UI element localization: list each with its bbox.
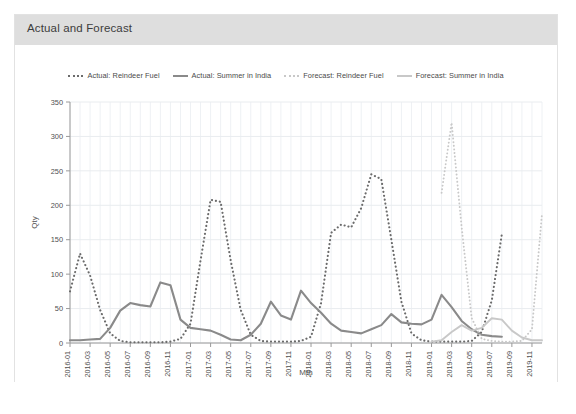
x-tick-label: 2016-03 — [83, 351, 92, 377]
x-tick-label: 2019-01 — [425, 351, 434, 377]
card-title: Actual and Forecast — [27, 22, 132, 34]
x-axis-title: Mth — [299, 368, 312, 377]
x-tick-label: 2019-11 — [525, 351, 534, 377]
x-tick-label: 2019-09 — [505, 351, 514, 377]
y-tick-label: 300 — [51, 132, 63, 141]
x-tick-label: 2018-09 — [384, 351, 393, 377]
y-tick-label: 0 — [59, 339, 63, 348]
y-tick-label: 50 — [55, 304, 63, 313]
x-tick-label: 2016-05 — [103, 351, 112, 377]
x-tick-label: 2017-11 — [284, 351, 293, 377]
x-tick-label: 2019-03 — [445, 351, 454, 377]
card-header: Actual and Forecast — [15, 15, 557, 45]
x-tick-label: 2016-01 — [63, 351, 72, 377]
x-tick-label: 2017-07 — [244, 351, 253, 377]
screenshot-root: Actual and Forecast Actual: Reindeer Fue… — [0, 0, 576, 414]
x-tick-label: 2016-09 — [143, 351, 152, 377]
x-tick-label: 2019-07 — [485, 351, 494, 377]
chart-card: Actual and Forecast Actual: Reindeer Fue… — [14, 14, 558, 382]
y-tick-label: 100 — [51, 270, 63, 279]
x-tick-label: 2018-07 — [364, 351, 373, 377]
x-tick-label: 2017-09 — [264, 351, 273, 377]
x-tick-label: 2016-07 — [123, 351, 132, 377]
x-tick-label: 2018-05 — [344, 351, 353, 377]
line-chart: 050100150200250300350Qty2016-012016-0320… — [15, 45, 559, 382]
series-line-3[interactable] — [432, 318, 542, 341]
x-tick-label: 2017-03 — [204, 351, 213, 377]
y-tick-label: 350 — [51, 98, 63, 107]
plot-area: 050100150200250300350Qty2016-012016-0320… — [15, 45, 557, 382]
card-body: Actual: Reindeer FuelActual: Summer in I… — [15, 45, 557, 382]
y-axis-title: Qty — [30, 216, 39, 228]
series-line-1[interactable] — [70, 282, 502, 340]
x-tick-label: 2016-11 — [163, 351, 172, 377]
y-tick-label: 150 — [51, 235, 63, 244]
y-tick-label: 200 — [51, 201, 63, 210]
x-tick-label: 2018-03 — [324, 351, 333, 377]
x-tick-label: 2017-01 — [184, 351, 193, 377]
x-tick-label: 2017-05 — [224, 351, 233, 377]
x-tick-label: 2019-05 — [465, 351, 474, 377]
y-tick-label: 250 — [51, 167, 63, 176]
x-tick-label: 2018-11 — [404, 351, 413, 377]
